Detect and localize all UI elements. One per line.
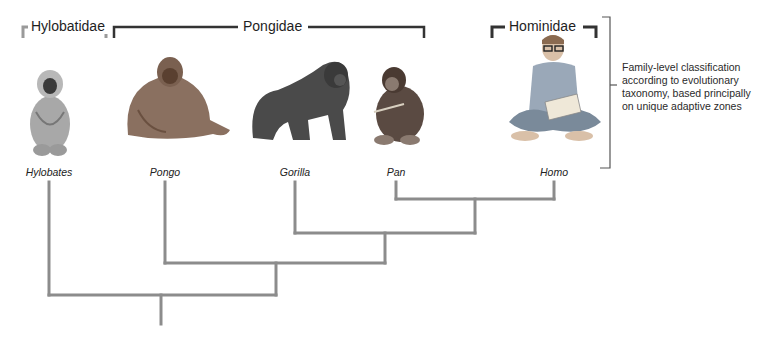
chimpanzee-illustration — [368, 64, 430, 146]
genus-label-gorilla: Gorilla — [245, 166, 345, 178]
genus-label-pongo: Pongo — [115, 166, 215, 178]
gorilla-illustration — [248, 50, 363, 145]
cladogram-tree — [49, 182, 554, 324]
annotation-line: taxonomy, based principally — [622, 87, 772, 100]
genus-label-homo: Homo — [504, 166, 604, 178]
human-illustration — [505, 32, 605, 146]
family-label-pongidae: Pongidae — [240, 18, 305, 34]
genus-label-hylobates: Hylobates — [0, 166, 99, 178]
annotation-line: on unique adaptive zones — [622, 100, 772, 113]
genus-label-pan: Pan — [346, 166, 446, 178]
orangutan-illustration — [118, 50, 233, 142]
classification-annotation: Family-level classification according to… — [622, 61, 772, 113]
annotation-line: Family-level classification — [622, 61, 772, 74]
family-label-hylobatidae: Hylobatidae — [28, 18, 108, 34]
annotation-line: according to evolutionary — [622, 74, 772, 87]
gibbon-illustration — [22, 62, 78, 162]
